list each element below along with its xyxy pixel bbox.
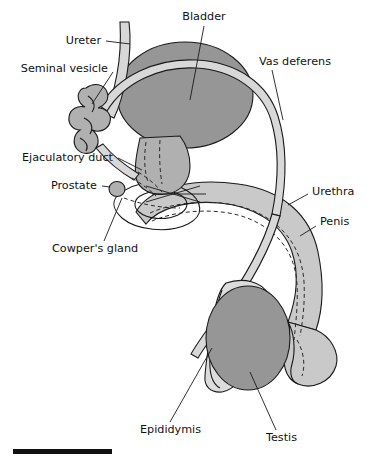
diagram-canvas: Bladder Ureter Seminal vesicle Vas defer… [0, 0, 370, 457]
label-seminal-vesicle: Seminal vesicle [21, 62, 108, 75]
leader-epididymis [170, 348, 212, 422]
label-bladder: Bladder [182, 10, 226, 23]
testis [206, 286, 290, 390]
leader-urethra [288, 194, 308, 205]
leader-prostate [102, 186, 110, 187]
bladder [117, 42, 253, 148]
anatomy-diagram-figure: Bladder Ureter Seminal vesicle Vas defer… [0, 0, 370, 457]
label-penis: Penis [320, 215, 349, 228]
scale-bar [13, 449, 112, 454]
label-testis: Testis [265, 431, 297, 444]
label-ureter: Ureter [66, 34, 102, 47]
label-ejaculatory-duct: Ejaculatory duct [22, 151, 114, 164]
bladder-neck [135, 136, 190, 194]
label-epididymis: Epididymis [140, 423, 201, 436]
prostate-group [109, 182, 125, 197]
label-urethra: Urethra [312, 185, 354, 198]
label-prostate: Prostate [51, 179, 97, 192]
testis-group [206, 286, 290, 390]
label-vas-deferens: Vas deferens [259, 55, 331, 68]
label-cowpers-gland: Cowper's gland [52, 242, 138, 255]
prostate [109, 182, 125, 197]
leader-cowpers-gland [104, 198, 122, 241]
seminal-vesicle [69, 85, 111, 154]
